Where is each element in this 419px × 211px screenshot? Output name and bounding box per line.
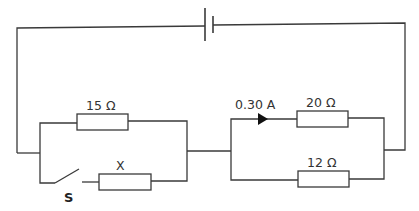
label-20-ohm: 20 Ω [306,95,336,110]
right-junction-right [348,118,384,179]
label-x: X [116,158,125,173]
current-arrow-icon [258,113,268,125]
label-12-ohm: 12 Ω [307,155,337,170]
top-right-wire [213,23,405,150]
switch-s[interactable] [55,169,79,183]
left-junction-right [128,121,187,181]
top-left-wire [17,26,205,153]
label-15-ohm: 15 Ω [86,98,116,113]
circuit-diagram: 15 Ω X S 0.30 A 20 Ω 12 Ω [0,0,419,211]
resistor-x [99,174,151,190]
resistor-12-ohm [298,171,349,187]
label-current: 0.30 A [235,97,276,112]
resistor-15-ohm [77,114,128,130]
right-junction-left [231,119,298,180]
label-switch-s: S [64,190,73,205]
resistor-20-ohm [297,111,348,127]
